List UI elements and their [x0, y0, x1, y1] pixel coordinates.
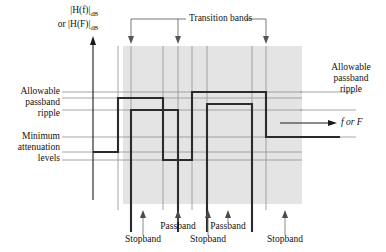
y-axis-label-line2: or |H(F)|: [58, 19, 91, 29]
bottom-label-stopband-1: Stopband: [108, 234, 178, 245]
right-label-ripple-line3: ripple: [318, 84, 384, 95]
y-axis-label: |H(f)|dB or |H(F)|dB: [38, 5, 98, 33]
left-label-ripple-line3: ripple: [0, 108, 60, 119]
figure-filter-specification-mask: |H(f)|dB or |H(F)|dB Transition bands f …: [0, 0, 386, 252]
filter-mask-svg: [0, 0, 386, 252]
left-label-atten-line2: attenuation: [0, 142, 60, 153]
y-axis-label-line1: |H(f)|: [70, 5, 90, 15]
transition-band-arrowheads: [128, 36, 269, 44]
y-axis: [90, 36, 96, 200]
left-label-minimum-attenuation-levels: Minimum attenuation levels: [0, 131, 60, 164]
shaded-band-region: [123, 46, 302, 204]
right-label-allowable-passband-ripple: Allowable passband ripple: [318, 62, 384, 95]
left-label-atten-line1: Minimum: [0, 131, 60, 142]
left-label-ripple-line2: passband: [0, 97, 60, 108]
left-label-atten-line3: levels: [0, 153, 60, 164]
transition-bands-label: Transition bands: [189, 13, 252, 24]
bottom-label-stopband-3: Stopband: [250, 234, 320, 245]
left-label-ripple-line1: Allowable: [0, 86, 60, 97]
right-label-ripple-line2: passband: [318, 73, 384, 84]
x-axis-label: f or F: [341, 117, 363, 128]
left-label-allowable-passband-ripple: Allowable passband ripple: [0, 86, 60, 119]
band-callout-arrowheads: [140, 210, 288, 218]
right-label-ripple-line1: Allowable: [318, 62, 384, 73]
y-axis-label-line2-sub: dB: [90, 24, 98, 31]
bottom-label-stopband-2: Stopband: [173, 234, 243, 245]
bottom-label-passband-2: Passband: [193, 221, 263, 232]
y-axis-label-line1-sub: dB: [90, 10, 98, 17]
